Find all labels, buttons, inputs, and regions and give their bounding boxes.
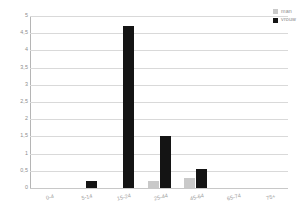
bar-group [251, 16, 288, 188]
bar-series-container [30, 16, 288, 188]
y-axis-tick-label: 4,5 [2, 30, 28, 35]
bar-group [141, 16, 178, 188]
legend-item-man[interactable]: man [273, 9, 292, 14]
x-axis-labels: 0-45-1415-2425-4445-6465-7475+ [30, 191, 288, 211]
bar-vrouw-45-64 [196, 169, 207, 188]
y-axis-tick-label: 3 [2, 82, 28, 87]
y-axis-tick-label: 2,5 [2, 99, 28, 104]
bar-group [177, 16, 214, 188]
bar-man-25-44 [148, 181, 159, 188]
bar-vrouw-25-44 [160, 136, 171, 188]
legend-swatch-icon [273, 9, 278, 14]
bar-vrouw-15-24 [123, 26, 134, 188]
bar-group [104, 16, 141, 188]
x-axis-tick-label: 15-24 [104, 187, 145, 215]
x-axis-tick-label: 45-64 [178, 187, 219, 215]
y-axis-tick-label: 5 [2, 13, 28, 18]
x-axis-tick-label: 65-74 [215, 187, 256, 215]
bar-chart: 00,511,522,533,544,55 0-45-1415-2425-444… [0, 0, 300, 218]
y-axis-tick-label: 1 [2, 151, 28, 156]
bar-group [214, 16, 251, 188]
x-axis-tick-label: 75+ [252, 187, 293, 215]
legend-swatch-icon [273, 18, 278, 23]
y-axis-tick-label: 3,5 [2, 65, 28, 70]
x-axis-tick-label: 0-4 [31, 187, 72, 215]
y-axis-tick-label: 0,5 [2, 168, 28, 173]
plot-area [30, 16, 288, 188]
bar-man-45-64 [184, 178, 195, 188]
bar-vrouw-5-14 [86, 181, 97, 188]
y-axis-tick-label: 4 [2, 48, 28, 53]
y-axis-tick-label: 2 [2, 116, 28, 121]
bar-group [67, 16, 104, 188]
y-axis-labels: 00,511,522,533,544,55 [0, 0, 28, 218]
x-axis-tick-label: 25-44 [141, 187, 182, 215]
y-axis-tick-label: 0 [2, 185, 28, 190]
legend-label: vrouw [281, 17, 296, 22]
legend-item-vrouw[interactable]: vrouw [273, 17, 296, 22]
legend-label: man [281, 9, 292, 14]
legend: manvrouw [273, 9, 296, 23]
x-axis-tick-label: 5-14 [67, 187, 108, 215]
bar-group [30, 16, 67, 188]
y-axis-tick-label: 1,5 [2, 134, 28, 139]
